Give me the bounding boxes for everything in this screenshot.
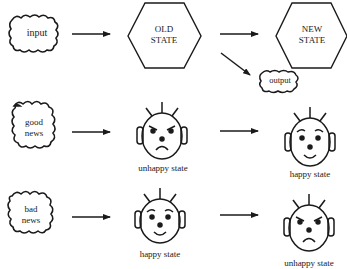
old-state-line1: OLD <box>155 24 174 34</box>
output-label: output <box>269 75 291 85</box>
bad-news-line2: news <box>22 215 41 225</box>
row3-old-state-caption: happy state <box>140 249 181 259</box>
unhappy-face-icon <box>137 102 187 159</box>
new-state-line1: NEW <box>302 24 323 34</box>
row2-old-state-caption: unhappy state <box>138 163 188 173</box>
arrow-old-state-to-output <box>221 53 250 75</box>
bad-news-line1: bad <box>25 204 38 214</box>
happy-face-icon <box>285 107 335 166</box>
old-state-hexagon: OLD STATE <box>128 3 201 68</box>
good-news-line2: news <box>25 128 44 138</box>
happy-face-icon <box>135 188 185 243</box>
input-label: input <box>27 27 48 38</box>
output-cloud: output <box>260 71 298 93</box>
old-state-line2: STATE <box>151 35 178 45</box>
new-state-line2: STATE <box>299 35 326 45</box>
new-state-hexagon: NEW STATE <box>276 3 347 68</box>
good-news-line1: good <box>25 117 44 127</box>
row2-new-state-caption: happy state <box>290 169 331 179</box>
unhappy-face-icon <box>284 194 334 251</box>
good-news-cloud: good news <box>12 102 55 149</box>
bad-news-cloud: bad news <box>8 192 53 234</box>
row3-new-state-caption: unhappy state <box>284 258 334 268</box>
state-diagram: input OLD STATE NEW STATE output good ne… <box>0 0 347 269</box>
input-cloud: input <box>9 15 58 52</box>
